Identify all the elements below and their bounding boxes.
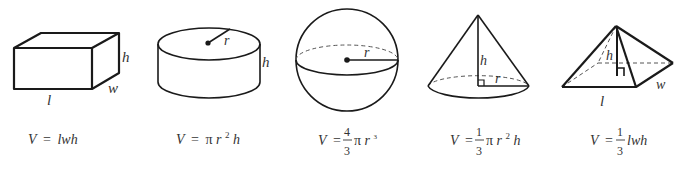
rectangular-prism: h w l bbox=[14, 33, 130, 108]
fraction-denominator: 3 bbox=[617, 144, 623, 158]
svg-text:V: V bbox=[590, 133, 600, 148]
svg-text:=: = bbox=[605, 133, 613, 148]
formula-rhs: lwh bbox=[57, 132, 77, 147]
fraction-denominator: 3 bbox=[476, 144, 482, 158]
volume-formulas-diagram: h w l V = lwh r h V = π r 2 h bbox=[0, 0, 686, 169]
sphere: r bbox=[296, 9, 398, 111]
svg-text:V: V bbox=[318, 133, 328, 148]
cylinder-radius-label: r bbox=[224, 33, 230, 48]
cylinder-bottom-arc bbox=[158, 82, 260, 98]
svg-text:=: = bbox=[333, 133, 341, 148]
pyramid-height-label: h bbox=[606, 48, 613, 63]
prism-top-face bbox=[14, 33, 119, 48]
cone: h r bbox=[428, 15, 529, 98]
formula-lhs: V bbox=[28, 132, 38, 147]
svg-text:V: V bbox=[450, 133, 460, 148]
svg-text:=: = bbox=[465, 133, 473, 148]
cylinder-formula: V = π r 2 h bbox=[176, 126, 240, 147]
cone-base-front bbox=[428, 86, 529, 98]
prism-width-label: w bbox=[108, 80, 118, 96]
cone-right-angle-icon bbox=[478, 80, 484, 86]
prism-length-label: l bbox=[47, 92, 51, 108]
fraction-numerator: 1 bbox=[476, 125, 482, 139]
pyramid-formula: V = 1 3 lwh bbox=[590, 125, 647, 158]
sphere-radius-label: r bbox=[364, 45, 370, 60]
pyramid: h l w bbox=[562, 26, 673, 109]
cone-formula: V = 1 3 π r 2 h bbox=[450, 125, 521, 158]
prism-front-face bbox=[14, 48, 92, 89]
prism-height-label: h bbox=[122, 49, 130, 65]
fraction-denominator: 3 bbox=[344, 144, 350, 158]
cone-radius-label: r bbox=[495, 71, 501, 86]
cone-height-label: h bbox=[480, 53, 487, 68]
svg-text:V = π r: V = π r 2 h bbox=[176, 126, 240, 147]
prism-formula: V = lwh bbox=[28, 132, 78, 147]
pyramid-right-edge bbox=[616, 26, 673, 63]
cylinder-height-label: h bbox=[262, 54, 270, 70]
cylinder: r h bbox=[158, 28, 270, 98]
sphere-formula: V = 4 3 π r 3 bbox=[318, 125, 378, 158]
svg-text:π r 3: π r 3 bbox=[354, 133, 378, 148]
svg-text:π r 2 h: π r 2 h bbox=[486, 127, 521, 148]
svg-text:lwh: lwh bbox=[627, 133, 647, 148]
formula-eq: = bbox=[43, 132, 51, 147]
pyramid-right-angle-icon bbox=[617, 68, 624, 76]
fraction-numerator: 4 bbox=[344, 125, 350, 139]
fraction-numerator: 1 bbox=[617, 125, 623, 139]
pyramid-width-label: w bbox=[656, 77, 666, 92]
svg-text:V = lwh: V = lwh bbox=[28, 132, 78, 147]
pyramid-length-label: l bbox=[600, 93, 604, 109]
pyramid-front-edge bbox=[616, 26, 636, 87]
